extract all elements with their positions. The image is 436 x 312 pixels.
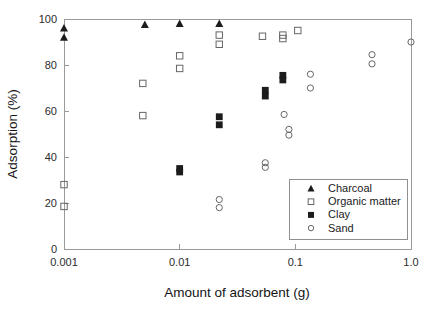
marker-organic-matter <box>295 27 301 33</box>
marker-sand <box>281 111 287 117</box>
y-axis-title: Adsorption (%) <box>5 89 20 178</box>
marker-clay <box>279 77 286 84</box>
marker-sand <box>369 61 375 67</box>
marker-organic-matter <box>140 80 146 86</box>
marker-sand <box>307 85 313 91</box>
marker-sand <box>216 196 222 202</box>
legend-label-sand: Sand <box>328 222 354 234</box>
x-axis-title: Amount of adsorbent (g) <box>164 285 310 300</box>
y-tick-label: 60 <box>45 105 57 117</box>
chart-svg: 020406080100 0.0010.010.11.0 Amount of a… <box>0 0 436 312</box>
marker-sand <box>307 71 313 77</box>
marker-clay <box>216 121 223 128</box>
series-charcoal <box>60 19 223 40</box>
marker-organic-matter <box>216 41 222 47</box>
series-clay <box>176 72 286 175</box>
y-tick-label: 40 <box>45 151 57 163</box>
marker-charcoal <box>60 24 68 31</box>
x-tick-label: 0.01 <box>169 256 190 268</box>
marker-sand <box>262 164 268 170</box>
marker-sand <box>216 205 222 211</box>
x-axis-tick-labels: 0.0010.010.11.0 <box>50 256 418 268</box>
x-axis-ticks <box>64 244 411 249</box>
marker-organic-matter <box>259 33 265 39</box>
legend-label-charcoal: Charcoal <box>328 182 372 194</box>
marker-clay <box>308 212 314 218</box>
marker-organic-matter <box>216 32 222 38</box>
marker-charcoal <box>215 19 223 26</box>
marker-clay <box>216 113 223 120</box>
marker-clay <box>262 93 269 100</box>
marker-charcoal <box>60 33 68 40</box>
y-axis-ticks <box>64 19 69 249</box>
y-tick-label: 100 <box>39 13 57 25</box>
y-tick-label: 0 <box>51 243 57 255</box>
marker-organic-matter <box>176 53 182 59</box>
x-tick-label: 1.0 <box>403 256 418 268</box>
marker-charcoal <box>176 19 184 26</box>
chart-legend: CharcoalOrganic matterClaySand <box>289 179 407 239</box>
marker-clay <box>176 169 183 176</box>
marker-charcoal <box>141 21 149 28</box>
y-tick-label: 20 <box>45 197 57 209</box>
marker-organic-matter <box>140 112 146 118</box>
x-tick-label: 0.1 <box>288 256 303 268</box>
y-axis-tick-labels: 020406080100 <box>39 13 57 255</box>
y-tick-label: 80 <box>45 59 57 71</box>
marker-sand <box>369 52 375 58</box>
legend-label-clay: Clay <box>328 208 351 220</box>
legend-label-organic-matter: Organic matter <box>328 195 401 207</box>
x-tick-label: 0.001 <box>50 256 78 268</box>
series-organic-matter <box>61 27 301 209</box>
marker-organic-matter <box>176 65 182 71</box>
scatter-chart-figure: 020406080100 0.0010.010.11.0 Amount of a… <box>0 0 436 312</box>
